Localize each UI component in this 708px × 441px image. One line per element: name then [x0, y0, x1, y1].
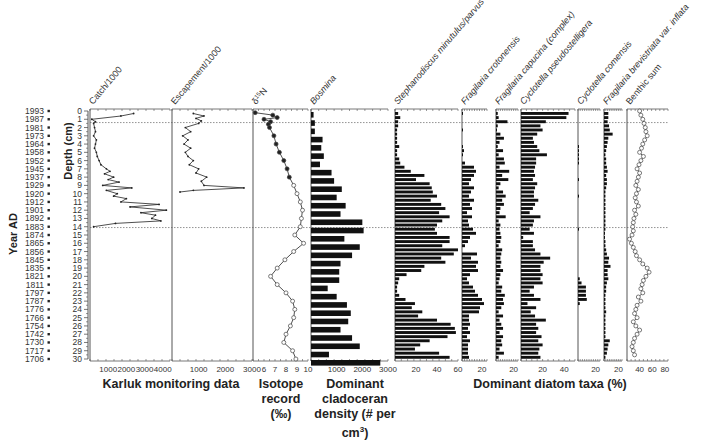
bar [496, 120, 507, 123]
data-point [113, 195, 115, 197]
bar [496, 323, 501, 326]
bar [521, 302, 527, 305]
bar [496, 116, 499, 119]
bar [496, 248, 502, 251]
bar [462, 310, 479, 313]
data-point [151, 218, 153, 220]
bar [311, 228, 364, 234]
x-tick-label: 80 [660, 365, 669, 374]
data-point [158, 204, 160, 206]
bar [578, 277, 580, 280]
data-point [192, 189, 194, 191]
data-point [182, 135, 184, 137]
bar [395, 273, 407, 276]
bar [311, 294, 337, 300]
bar [462, 302, 484, 305]
data-point [95, 151, 97, 153]
year-marker [48, 242, 50, 244]
cladoceran-label-line2: cladoceran [305, 392, 405, 407]
data-point [643, 126, 647, 130]
bar [496, 145, 498, 148]
bar [604, 277, 608, 280]
x-tick-label: 20 [412, 365, 421, 374]
bar [604, 244, 605, 247]
bar [604, 133, 613, 136]
bar [462, 170, 476, 173]
bar [395, 141, 397, 144]
data-point [195, 172, 197, 174]
bar [578, 294, 586, 297]
data-point [632, 216, 636, 220]
bar [604, 162, 606, 165]
bar [311, 219, 362, 225]
data-point [634, 200, 638, 204]
x-tick-label: 1000 [328, 365, 346, 374]
data-point [298, 200, 302, 204]
data-point [94, 147, 96, 149]
data-point [301, 208, 305, 212]
bar [462, 298, 482, 301]
bar [496, 302, 504, 305]
bar [521, 273, 543, 276]
bar [496, 191, 503, 194]
bar [496, 219, 499, 222]
data-point [641, 291, 645, 295]
data-point [262, 117, 266, 121]
bar [604, 298, 605, 301]
data-point [298, 225, 302, 229]
bar [496, 277, 500, 280]
bar [462, 182, 469, 185]
data-point [120, 115, 122, 117]
bar [311, 310, 351, 316]
data-point [299, 216, 303, 220]
year-marker [48, 118, 50, 120]
panel-d15n: 678910δ15N [250, 86, 313, 374]
data-point [277, 150, 281, 154]
data-point [635, 179, 639, 183]
year-marker [48, 192, 50, 194]
x-tick-label: 20 [614, 365, 623, 374]
data-point [293, 233, 297, 237]
data-point [203, 115, 205, 117]
data-point [644, 274, 648, 278]
bar [521, 153, 547, 156]
data-point [291, 299, 295, 303]
bar [395, 331, 456, 334]
data-point [275, 266, 279, 270]
data-point [282, 340, 286, 344]
bar [311, 129, 315, 135]
bar [395, 294, 399, 297]
bar [462, 162, 465, 165]
bar [462, 203, 470, 206]
bar [395, 174, 424, 177]
data-point [634, 212, 638, 216]
bar [521, 261, 544, 264]
bar [521, 315, 535, 318]
bar [395, 335, 448, 338]
data-point [633, 196, 637, 200]
bar [521, 269, 540, 272]
bar [521, 191, 534, 194]
data-point [292, 316, 296, 320]
bar [604, 348, 608, 351]
data-point [105, 189, 107, 191]
data-point [634, 254, 638, 258]
bar [604, 319, 605, 322]
data-point [105, 168, 107, 170]
year-marker [48, 184, 50, 186]
bar [311, 253, 352, 259]
bar [604, 170, 608, 173]
bar [311, 286, 328, 292]
data-point [91, 118, 93, 120]
data-point [295, 192, 299, 196]
year-marker [48, 135, 50, 137]
data-point [634, 324, 638, 328]
bar [395, 315, 418, 318]
bar [395, 224, 437, 227]
cladoceran-label-line1: Dominant [305, 377, 405, 392]
bar [395, 232, 437, 235]
bar [521, 137, 533, 140]
data-point [206, 176, 208, 178]
bar [462, 253, 477, 256]
data-point [641, 117, 645, 121]
